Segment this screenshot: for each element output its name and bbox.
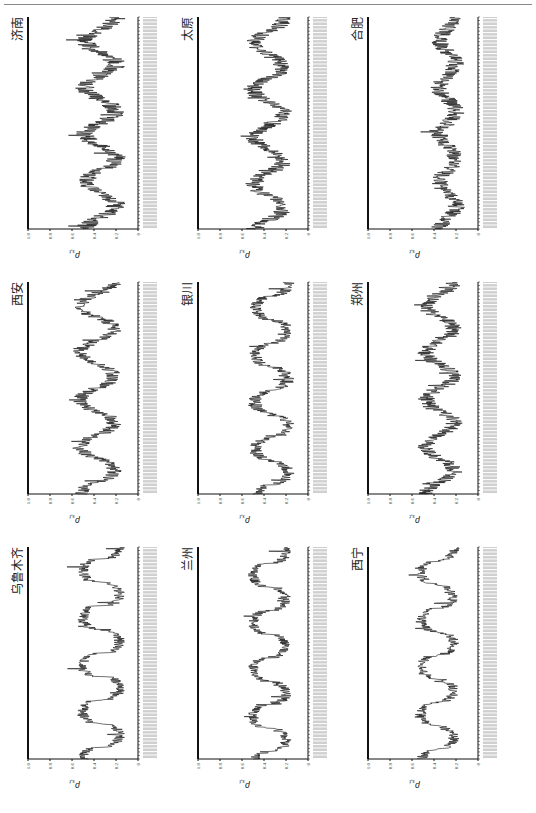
chart-panel-4: 00.20.40.60.81.0银川ρs,t <box>176 276 336 528</box>
svg-text:0.8: 0.8 <box>218 498 223 505</box>
svg-text:0.8: 0.8 <box>48 763 53 770</box>
panel-title: 郑州 <box>348 282 366 306</box>
svg-text:0.6: 0.6 <box>240 233 245 240</box>
svg-text:0.4: 0.4 <box>262 233 267 240</box>
svg-text:0.6: 0.6 <box>410 233 415 240</box>
series-line <box>67 547 125 759</box>
series-line <box>248 282 294 494</box>
series-line <box>244 547 291 759</box>
svg-text:0.8: 0.8 <box>218 233 223 240</box>
svg-text:0.6: 0.6 <box>70 233 75 240</box>
series-line <box>409 547 460 759</box>
svg-text:1.0: 1.0 <box>26 498 31 505</box>
chart-panel-1: 00.20.40.60.81.0兰州ρs,t <box>176 541 336 793</box>
panel-title: 济南 <box>8 17 26 41</box>
svg-text:0.8: 0.8 <box>48 233 53 240</box>
svg-text:1.0: 1.0 <box>196 498 201 505</box>
svg-text:0.8: 0.8 <box>388 763 393 770</box>
svg-text:0: 0 <box>136 233 141 236</box>
svg-text:0: 0 <box>476 233 481 236</box>
chart-panel-3: 00.20.40.60.81.0西安ρs,t <box>6 276 166 528</box>
svg-text:0.2: 0.2 <box>454 498 459 505</box>
y-axis-label: ρs,t <box>69 249 79 262</box>
svg-text:0.2: 0.2 <box>114 763 119 770</box>
svg-text:0.4: 0.4 <box>92 763 97 770</box>
svg-text:0.4: 0.4 <box>432 763 437 770</box>
chart-panel-0: 00.20.40.60.81.0乌鲁木齐ρs,t <box>6 541 166 793</box>
svg-text:0.6: 0.6 <box>70 763 75 770</box>
panel-title: 西安 <box>8 282 26 306</box>
svg-text:0.6: 0.6 <box>240 763 245 770</box>
chart-panel-8: 00.20.40.60.81.0合肥ρs,t <box>346 11 506 263</box>
svg-text:0: 0 <box>476 763 481 766</box>
chart-grid: 00.20.40.60.81.0乌鲁木齐ρs,t00.20.40.60.81.0… <box>0 0 536 813</box>
svg-text:0.8: 0.8 <box>218 763 223 770</box>
chart-panel-6: 00.20.40.60.81.0济南ρs,t <box>6 11 166 263</box>
chart-panel-7: 00.20.40.60.81.0太原ρs,t <box>176 11 336 263</box>
svg-text:1.0: 1.0 <box>196 233 201 240</box>
panel-title: 兰州 <box>178 547 196 571</box>
svg-text:0: 0 <box>136 763 141 766</box>
svg-text:0.6: 0.6 <box>240 498 245 505</box>
panel-title: 西宁 <box>348 547 366 571</box>
svg-text:0.4: 0.4 <box>92 498 97 505</box>
svg-text:0.2: 0.2 <box>114 498 119 505</box>
y-axis-label: ρs,t <box>409 779 419 792</box>
svg-text:0.8: 0.8 <box>388 498 393 505</box>
series-line <box>421 17 465 229</box>
svg-text:1.0: 1.0 <box>196 763 201 770</box>
y-axis-label: ρs,t <box>409 514 419 527</box>
y-axis-label: ρs,t <box>239 249 249 262</box>
svg-text:0.2: 0.2 <box>114 233 119 240</box>
series-line <box>66 17 125 229</box>
svg-text:0.6: 0.6 <box>410 763 415 770</box>
svg-text:0.2: 0.2 <box>454 763 459 770</box>
series-line <box>414 282 462 494</box>
svg-text:0.4: 0.4 <box>262 763 267 770</box>
svg-text:0.8: 0.8 <box>48 498 53 505</box>
panel-title: 银川 <box>178 282 196 306</box>
svg-text:0: 0 <box>306 498 311 501</box>
svg-text:0.4: 0.4 <box>432 233 437 240</box>
svg-text:1.0: 1.0 <box>366 233 371 240</box>
svg-text:0: 0 <box>136 498 141 501</box>
svg-text:0.4: 0.4 <box>92 233 97 240</box>
svg-text:0: 0 <box>306 763 311 766</box>
panel-title: 合肥 <box>348 17 366 41</box>
svg-text:0.8: 0.8 <box>388 233 393 240</box>
svg-text:1.0: 1.0 <box>366 498 371 505</box>
svg-text:0.2: 0.2 <box>454 233 459 240</box>
y-axis-label: ρs,t <box>239 514 249 527</box>
svg-text:0.6: 0.6 <box>410 498 415 505</box>
y-axis-label: ρs,t <box>69 514 79 527</box>
svg-text:1.0: 1.0 <box>26 763 31 770</box>
svg-text:0.4: 0.4 <box>432 498 437 505</box>
y-axis-label: ρs,t <box>69 779 79 792</box>
svg-text:1.0: 1.0 <box>366 763 371 770</box>
svg-text:1.0: 1.0 <box>26 233 31 240</box>
svg-text:0.2: 0.2 <box>284 763 289 770</box>
chart-panel-5: 00.20.40.60.81.0郑州ρs,t <box>346 276 506 528</box>
svg-text:0.4: 0.4 <box>262 498 267 505</box>
chart-panel-2: 00.20.40.60.81.0西宁ρs,t <box>346 541 506 793</box>
y-axis-label: ρs,t <box>409 249 419 262</box>
svg-text:0: 0 <box>476 498 481 501</box>
panel-title: 太原 <box>178 17 196 41</box>
svg-text:0.6: 0.6 <box>70 498 75 505</box>
series-line <box>69 282 121 494</box>
panel-title: 乌鲁木齐 <box>8 547 26 595</box>
svg-text:0.2: 0.2 <box>284 233 289 240</box>
svg-text:0: 0 <box>306 233 311 236</box>
svg-text:0.2: 0.2 <box>284 498 289 505</box>
series-line <box>241 17 292 229</box>
y-axis-label: ρs,t <box>239 779 249 792</box>
